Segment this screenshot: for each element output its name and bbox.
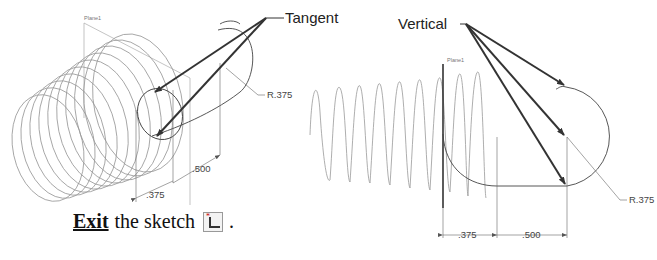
radius-label: R.375 [267,89,292,100]
radius-label-right: R.375 [629,194,654,205]
plane-label: Plane1 [84,15,101,21]
instruction-keyword: Exit [73,210,109,233]
dim-left: .375 [458,229,477,240]
vertical-leaders [460,24,565,184]
instruction-period: . [229,210,234,233]
plane-label-right: Plane1 [447,57,464,63]
right-dimensions [443,137,627,238]
instruction: Exit the sketch * . [73,210,234,233]
dim-vertical: .500 [192,163,211,174]
helix-profile [310,72,486,198]
right-front-view: Plane1 .375 .500 R.375 Vertical [310,15,654,240]
slot-profile [443,86,609,186]
dimensions [136,63,265,202]
vertical-callout: Vertical [398,15,447,32]
instruction-text: the sketch [115,210,196,233]
dim-right: .500 [522,229,541,240]
exit-sketch-icon[interactable]: * [203,212,223,232]
dim-horizontal: .375 [146,189,165,200]
left-isometric-view: Plane1 . [3,9,340,208]
tangent-callout: Tangent [285,9,339,26]
helix-coils [3,25,196,208]
tangent-leaders [155,18,284,136]
